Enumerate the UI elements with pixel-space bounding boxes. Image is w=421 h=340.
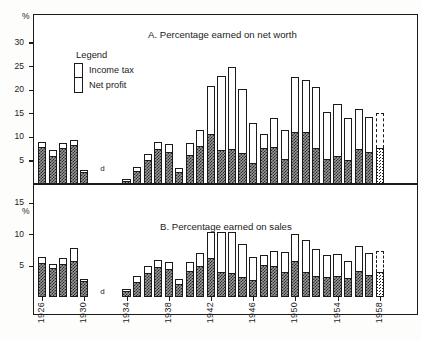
panel-b-gap-marker: d bbox=[100, 288, 104, 296]
bar-segment-net-profit bbox=[302, 272, 310, 297]
stacked-bar bbox=[355, 246, 363, 298]
bar-segment-net-profit bbox=[70, 261, 78, 297]
bar-segment-net-profit bbox=[238, 277, 246, 297]
bar-1945 bbox=[238, 244, 246, 297]
figure-root: % 51015202530 A. Percentage earned on ne… bbox=[0, 0, 421, 340]
stacked-bar bbox=[154, 260, 162, 297]
bar-1949 bbox=[281, 252, 289, 297]
bar-1940 bbox=[186, 262, 194, 297]
stacked-bar bbox=[281, 252, 289, 297]
bar-segment-net-profit bbox=[376, 272, 384, 297]
bar-segment-net-profit bbox=[196, 266, 204, 297]
bar-1958 bbox=[376, 251, 384, 297]
bar-segment-income-tax bbox=[355, 246, 363, 272]
bar-segment-net-profit bbox=[38, 263, 46, 297]
bar-1939 bbox=[175, 279, 183, 297]
bar-segment-income-tax bbox=[260, 255, 268, 265]
bar-1941 bbox=[196, 253, 204, 297]
x-tick-mark bbox=[253, 297, 254, 301]
stacked-bar bbox=[323, 255, 331, 297]
bar-segment-income-tax bbox=[302, 240, 310, 272]
bar-1955 bbox=[344, 261, 352, 297]
bar-segment-net-profit bbox=[217, 272, 225, 297]
bar-segment-net-profit bbox=[291, 261, 299, 297]
bar-segment-income-tax bbox=[70, 248, 78, 261]
bar-segment-net-profit bbox=[133, 282, 141, 297]
stacked-bar bbox=[333, 254, 341, 297]
bar-1951 bbox=[302, 240, 310, 297]
stacked-bar bbox=[165, 262, 173, 297]
stacked-bar bbox=[207, 232, 215, 297]
bar-1926 bbox=[38, 257, 46, 297]
bar-1930 bbox=[80, 279, 88, 297]
x-tick-label-1946: 1946 bbox=[248, 302, 257, 323]
stacked-bar bbox=[260, 255, 268, 297]
bar-segment-income-tax bbox=[165, 262, 173, 269]
bar-segment-net-profit bbox=[80, 281, 88, 297]
x-tick-mark bbox=[338, 297, 339, 301]
stacked-bar bbox=[302, 240, 310, 297]
bar-1954 bbox=[333, 254, 341, 297]
bar-segment-net-profit bbox=[365, 275, 373, 297]
stacked-bar bbox=[122, 289, 130, 297]
bar-segment-income-tax bbox=[144, 266, 152, 273]
stacked-bar bbox=[186, 262, 194, 297]
bar-segment-income-tax bbox=[154, 260, 162, 268]
bar-segment-net-profit bbox=[49, 268, 57, 297]
bar-segment-income-tax bbox=[207, 232, 215, 258]
x-tick-mark bbox=[295, 297, 296, 301]
x-tick-label-1934: 1934 bbox=[122, 302, 131, 323]
bar-1937 bbox=[154, 260, 162, 297]
stacked-bar bbox=[270, 251, 278, 297]
bar-segment-net-profit bbox=[249, 280, 257, 297]
stacked-bar bbox=[80, 279, 88, 297]
bar-1946 bbox=[249, 257, 257, 297]
bar-1948 bbox=[270, 251, 278, 297]
bar-1957 bbox=[365, 253, 373, 297]
stacked-bar bbox=[49, 264, 57, 297]
stacked-bar bbox=[344, 261, 352, 297]
x-tick-label-1954: 1954 bbox=[333, 302, 342, 323]
bar-1942 bbox=[207, 232, 215, 297]
bar-segment-net-profit bbox=[154, 267, 162, 297]
stacked-bar bbox=[365, 253, 373, 297]
bar-segment-net-profit bbox=[281, 272, 289, 297]
x-tick-label-1942: 1942 bbox=[206, 302, 215, 323]
bar-1934 bbox=[122, 289, 130, 297]
bar-segment-income-tax bbox=[228, 232, 236, 273]
bar-segment-income-tax bbox=[186, 262, 194, 270]
stacked-bar bbox=[228, 232, 236, 297]
stacked-bar bbox=[312, 249, 320, 297]
bar-segment-income-tax bbox=[281, 252, 289, 271]
stacked-bar bbox=[196, 253, 204, 297]
bar-segment-income-tax bbox=[323, 255, 331, 277]
stacked-bar bbox=[249, 257, 257, 297]
stacked-bar bbox=[70, 248, 78, 297]
stacked-bar bbox=[291, 234, 299, 297]
bar-segment-income-tax bbox=[238, 244, 246, 277]
bar-1936 bbox=[144, 266, 152, 297]
bar-1927 bbox=[49, 264, 57, 297]
stacked-bar bbox=[144, 266, 152, 297]
x-tick-label-1950: 1950 bbox=[290, 302, 299, 323]
stacked-bar bbox=[175, 279, 183, 297]
bar-segment-income-tax bbox=[249, 257, 257, 280]
bar-segment-net-profit bbox=[228, 273, 236, 297]
bar-segment-income-tax bbox=[344, 261, 352, 278]
stacked-bar bbox=[133, 276, 141, 297]
bar-1944 bbox=[228, 232, 236, 297]
bar-segment-net-profit bbox=[344, 278, 352, 297]
bar-segment-net-profit bbox=[260, 265, 268, 297]
bar-segment-net-profit bbox=[186, 271, 194, 297]
bar-segment-income-tax bbox=[217, 232, 225, 272]
stacked-bar bbox=[376, 251, 384, 297]
bar-segment-income-tax bbox=[312, 249, 320, 276]
panel-b-plot bbox=[0, 0, 421, 340]
bar-segment-net-profit bbox=[59, 264, 67, 297]
x-tick-mark bbox=[211, 297, 212, 301]
bar-segment-net-profit bbox=[323, 277, 331, 297]
bar-segment-income-tax bbox=[376, 251, 384, 272]
bar-segment-income-tax bbox=[196, 253, 204, 266]
bar-segment-income-tax bbox=[333, 254, 341, 275]
x-tick-label-1958: 1958 bbox=[375, 302, 384, 323]
